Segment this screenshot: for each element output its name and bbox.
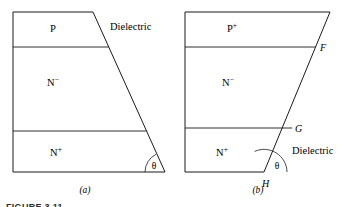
panel-b-theta-arc [255, 149, 287, 172]
panel-b-label: (b) [252, 185, 263, 196]
panel-a-region-n-minus: N− [47, 75, 59, 88]
panel-a-label: (a) [79, 185, 90, 196]
panel-b-point-g-label: G [295, 123, 302, 134]
panel-a-region-p: P [50, 23, 56, 34]
panel-a-outline [13, 12, 165, 172]
figure-svg: P N− N+ Dielectric θ (a) P+ N− [0, 0, 346, 207]
panel-b-theta-label: θ [275, 161, 280, 171]
panel-b-region-n-minus: N− [222, 75, 234, 88]
panel-b-region-n-plus: N+ [216, 145, 228, 158]
panel-a-dielectric-label: Dielectric [110, 21, 152, 32]
panel-a-theta-label: θ [152, 161, 157, 171]
panel-b: P+ N− N+ F G H Dielectric θ (b) [185, 12, 334, 196]
figure-caption: FIGURE 3.11 [6, 203, 63, 207]
panel-b-point-f-label: F [319, 42, 327, 53]
panel-a-region-n-plus: N+ [50, 145, 62, 158]
panel-b-dielectric-label: Dielectric [292, 145, 334, 156]
panel-b-region-p-plus: P+ [227, 21, 237, 34]
panel-a: P N− N+ Dielectric θ (a) [13, 12, 165, 196]
figure-container: P N− N+ Dielectric θ (a) P+ N− [0, 0, 346, 207]
